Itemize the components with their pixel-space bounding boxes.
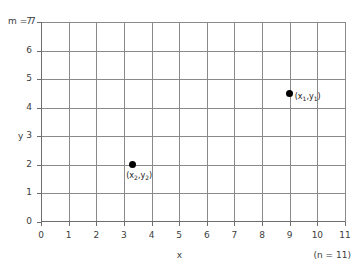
plot-area: (x1,y1)(x2,y2) [41, 22, 345, 222]
x-axis-tick [207, 222, 208, 226]
grid-line-horizontal [41, 136, 345, 137]
y-axis-tick [37, 222, 41, 223]
data-point [286, 90, 293, 97]
x-axis-line [41, 221, 345, 222]
grid-line-vertical [207, 22, 208, 222]
y-axis-tick [37, 136, 41, 137]
y-axis-tick-label: 7 [10, 16, 32, 26]
x-axis-tick-label: 2 [86, 230, 106, 240]
data-point-label: (x2,y2) [126, 171, 152, 180]
grid-line-horizontal [41, 51, 345, 52]
grid-line-vertical [124, 22, 125, 222]
y-axis-tick [37, 193, 41, 194]
y-axis-tick [37, 108, 41, 109]
y-axis-tick [37, 165, 41, 166]
x-axis-tick-label: 9 [280, 230, 300, 240]
x-axis-tick-label: 8 [252, 230, 272, 240]
grid-line-horizontal [41, 193, 345, 194]
x-axis-tick [96, 222, 97, 226]
y-axis-tick-label: 1 [10, 187, 32, 197]
grid-line-vertical [96, 22, 97, 222]
grid-line-vertical [152, 22, 153, 222]
x-axis-tick [317, 222, 318, 226]
y-axis-line [41, 22, 42, 222]
grid-line-vertical [262, 22, 263, 222]
y-axis-tick-label: 3 [10, 130, 32, 140]
x-axis-tick-label: 4 [142, 230, 162, 240]
x-axis-tick [290, 222, 291, 226]
x-axis-tick-label: 0 [31, 230, 51, 240]
x-axis-tick-label: 10 [307, 230, 327, 240]
y-axis-tick-label: 4 [10, 102, 32, 112]
x-axis-tick [124, 222, 125, 226]
x-axis-title: x [0, 250, 359, 260]
y-axis-tick [37, 51, 41, 52]
grid-line-horizontal [41, 22, 345, 23]
x-axis-tick-label: 7 [224, 230, 244, 240]
x-axis-tick [234, 222, 235, 226]
y-axis-tick-label: 5 [10, 73, 32, 83]
n-annotation: (n = 11) [314, 250, 351, 260]
y-axis-tick [37, 22, 41, 23]
x-axis-tick [152, 222, 153, 226]
x-axis-tick-label: 3 [114, 230, 134, 240]
x-axis-tick [345, 222, 346, 226]
grid-line-horizontal [41, 79, 345, 80]
grid-line-vertical [345, 22, 346, 222]
y-axis-tick-label: 6 [10, 45, 32, 55]
grid-line-horizontal [41, 108, 345, 109]
grid-line-vertical [234, 22, 235, 222]
x-axis-tick-label: 1 [59, 230, 79, 240]
chart-figure: m = 7 y (x1,y1)(x2,y2) 01234567891011012… [0, 0, 359, 272]
x-axis-tick [179, 222, 180, 226]
x-axis-tick-label: 11 [335, 230, 355, 240]
x-axis-tick-label: 5 [169, 230, 189, 240]
data-point-label: (x1,y1) [295, 92, 321, 101]
grid-line-vertical [179, 22, 180, 222]
grid-line-vertical [290, 22, 291, 222]
grid-line-horizontal [41, 165, 345, 166]
x-axis-tick [262, 222, 263, 226]
y-axis-tick [37, 79, 41, 80]
x-axis-tick [69, 222, 70, 226]
x-axis-tick [41, 222, 42, 226]
grid-line-vertical [69, 22, 70, 222]
x-axis-tick-label: 6 [197, 230, 217, 240]
grid-line-vertical [317, 22, 318, 222]
data-point [129, 161, 136, 168]
y-axis-tick-label: 0 [10, 216, 32, 226]
y-axis-tick-label: 2 [10, 159, 32, 169]
